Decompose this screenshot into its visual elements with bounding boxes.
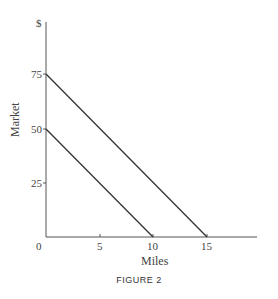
x-axis-label: Miles [141,254,168,269]
x-tick-label-10: 10 [147,240,158,252]
figure-caption: FIGURE 2 [0,275,278,285]
x-tick-label-15: 15 [201,240,212,252]
x-tick-label-0: 0 [36,240,42,252]
y-tick-label-25: 25 [31,177,42,189]
y-unit-label: $ [36,17,42,29]
chart-canvas [0,0,278,299]
lower-line [46,129,153,237]
upper-line [46,74,207,237]
x-tick-label-5: 5 [97,240,103,252]
y-tick-label-50: 50 [31,123,42,135]
y-tick-label-75: 75 [31,68,42,80]
y-axis-label: Market [8,102,23,137]
